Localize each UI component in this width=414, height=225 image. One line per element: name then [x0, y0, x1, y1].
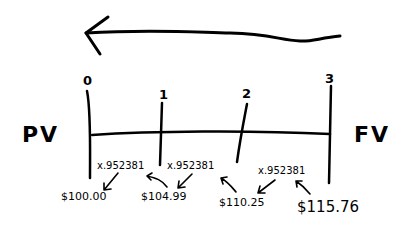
period-2-value: $110.25	[219, 197, 265, 208]
discount-factor-3-to-2: x.952381	[258, 166, 305, 176]
arrow-to-period-2	[258, 180, 275, 193]
period-0-value: $100.00	[61, 191, 107, 202]
arrow-to-period-1	[178, 174, 192, 188]
period-1-label: 1	[159, 88, 168, 101]
period-3-label: 3	[325, 72, 334, 85]
tick-2	[237, 104, 247, 162]
arrow-head-icon	[86, 17, 108, 54]
period-1-value: $104.99	[141, 191, 187, 202]
period-0-label: 0	[83, 74, 92, 87]
arrow-to-period-0	[104, 173, 118, 190]
tick-1	[160, 103, 162, 165]
discount-factor-2-to-1: x.952381	[167, 161, 214, 171]
period-2-label: 2	[242, 87, 251, 100]
fv-label: FV	[354, 124, 390, 146]
tick-3	[329, 86, 331, 183]
tick-0	[87, 91, 90, 178]
discount-factor-1-to-0: x.952381	[97, 161, 144, 171]
pv-label: PV	[22, 124, 59, 146]
arrow-from-period-1	[147, 173, 167, 187]
timeline-axis	[92, 131, 330, 135]
period-3-value: $115.76	[297, 200, 359, 215]
direction-arrow	[86, 31, 340, 41]
arrow-from-period-3	[296, 181, 310, 194]
arrow-from-period-2	[221, 177, 236, 192]
